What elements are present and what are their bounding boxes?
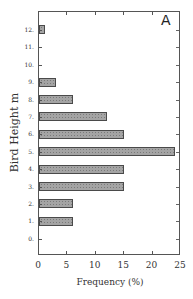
bar: [39, 95, 73, 104]
x-tick-label: 15: [113, 260, 133, 270]
y-tick-right: [176, 117, 179, 118]
y-tick-label: 1.: [14, 218, 34, 224]
y-tick-right: [176, 65, 179, 66]
y-tick-right: [176, 221, 179, 222]
bar: [39, 165, 124, 174]
x-tick: [152, 251, 153, 254]
y-tick-label: 12.: [14, 27, 34, 33]
y-tick-right: [176, 30, 179, 31]
x-tick-label: 20: [142, 260, 162, 270]
x-tick-label: 25: [170, 260, 190, 270]
y-tick-label: 2.: [14, 201, 34, 207]
y-tick-right: [176, 169, 179, 170]
y-tick: [39, 239, 42, 240]
x-tick-label: 10: [85, 260, 105, 270]
y-tick: [39, 134, 42, 135]
bar: [39, 112, 107, 121]
y-axis-title: Bird Height m: [8, 83, 21, 183]
y-tick-label: 0.: [14, 236, 34, 242]
y-tick-label: 3.: [14, 184, 34, 190]
y-tick-right: [176, 100, 179, 101]
y-tick-right: [176, 187, 179, 188]
y-tick: [39, 221, 42, 222]
x-tick-top: [66, 12, 67, 15]
y-tick-right: [176, 204, 179, 205]
x-tick-top: [123, 12, 124, 15]
x-tick-top: [152, 12, 153, 15]
x-tick-label: 0: [28, 260, 48, 270]
y-tick: [39, 187, 42, 188]
x-tick: [95, 251, 96, 254]
y-tick-right: [176, 152, 179, 153]
x-tick-label: 5: [56, 260, 76, 270]
bar: [39, 130, 124, 139]
bird-height-frequency-chart: A 0.1.2.3.4.5.6.7.8.9.10.11.12. 05101520…: [0, 0, 193, 299]
bar: [39, 217, 73, 226]
y-tick: [39, 47, 42, 48]
y-tick: [39, 100, 42, 101]
x-tick: [66, 251, 67, 254]
x-axis-title: Frequency (%): [60, 277, 160, 287]
y-tick: [39, 65, 42, 66]
x-tick-top: [95, 12, 96, 15]
y-tick: [39, 82, 42, 83]
y-tick-right: [176, 82, 179, 83]
y-tick: [39, 204, 42, 205]
y-tick-label: 11.: [14, 44, 34, 50]
bar: [39, 199, 73, 208]
y-tick: [39, 152, 42, 153]
y-tick-label: 10.: [14, 62, 34, 68]
bar: [39, 182, 124, 191]
x-tick: [123, 251, 124, 254]
y-tick: [39, 117, 42, 118]
y-tick: [39, 30, 42, 31]
y-tick-right: [176, 47, 179, 48]
bar: [39, 147, 175, 156]
y-tick-right: [176, 239, 179, 240]
y-tick: [39, 169, 42, 170]
y-tick-right: [176, 134, 179, 135]
